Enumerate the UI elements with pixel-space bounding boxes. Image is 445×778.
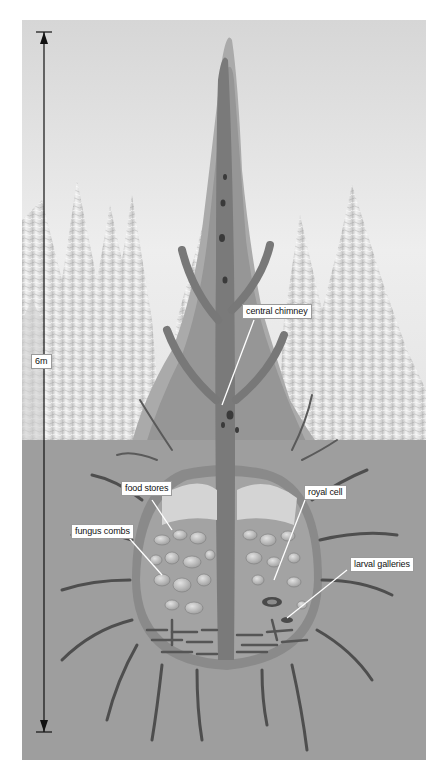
label-fungus-combs: fungus combs [71, 524, 134, 539]
diagram-frame: 6m central chimney food stores fungus co… [22, 20, 426, 760]
termite-mound-illustration [22, 20, 426, 760]
scale-height-label: 6m [31, 354, 52, 369]
label-central-chimney: central chimney [242, 304, 312, 319]
label-larval-galleries: larval galleries [350, 557, 414, 572]
label-royal-cell: royal cell [304, 485, 347, 500]
label-food-stores: food stores [121, 481, 172, 496]
